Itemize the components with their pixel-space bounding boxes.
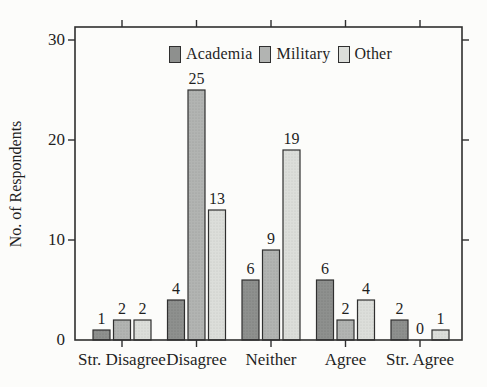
bar-other-2 xyxy=(283,150,300,340)
bar-academia-3 xyxy=(317,280,334,340)
bar-other-1 xyxy=(209,210,226,340)
bar-other-3 xyxy=(358,300,375,340)
bar-value-label: 19 xyxy=(284,130,300,147)
bar-military-1 xyxy=(188,90,205,340)
bar-academia-1 xyxy=(168,300,185,340)
bar-value-label: 1 xyxy=(437,310,445,327)
legend-item-military: Military xyxy=(259,45,330,63)
x-category-label: Str. Disagree xyxy=(78,350,166,369)
bar-value-label: 9 xyxy=(267,230,275,247)
legend-label-other: Other xyxy=(355,45,392,63)
y-axis-title: No. of Respondents xyxy=(7,121,25,248)
legend-swatch-military xyxy=(259,46,271,63)
bar-value-label: 0 xyxy=(416,320,424,337)
scanned-figure-page: 122Str. Disagree42513Disagree6919Neither… xyxy=(0,0,487,387)
bar-value-label: 4 xyxy=(362,280,370,297)
bar-value-label: 4 xyxy=(172,280,180,297)
legend-swatch-other xyxy=(338,46,350,63)
bar-other-0 xyxy=(134,320,151,340)
bar-value-label: 2 xyxy=(139,300,147,317)
y-tick-label: 10 xyxy=(48,230,65,249)
legend-item-other: Other xyxy=(338,45,392,63)
bar-value-label: 2 xyxy=(342,300,350,317)
legend-item-academia: Academia xyxy=(169,45,252,63)
x-category-label: Neither xyxy=(246,350,297,369)
legend-label-academia: Academia xyxy=(186,45,252,63)
bar-academia-4 xyxy=(391,320,408,340)
x-category-label: Agree xyxy=(325,350,367,369)
legend-label-military: Military xyxy=(276,45,330,63)
bar-other-4 xyxy=(432,330,449,340)
bar-value-label: 6 xyxy=(247,260,255,277)
bar-value-label: 2 xyxy=(118,300,126,317)
bar-value-label: 2 xyxy=(396,300,404,317)
y-tick-label: 20 xyxy=(48,130,65,149)
bar-military-3 xyxy=(337,320,354,340)
legend-swatch-academia xyxy=(169,46,181,63)
bar-value-label: 13 xyxy=(209,190,225,207)
bar-military-0 xyxy=(114,320,131,340)
bar-military-2 xyxy=(263,250,280,340)
bar-value-label: 1 xyxy=(98,310,106,327)
bar-value-label: 25 xyxy=(189,70,205,87)
bar-academia-2 xyxy=(242,280,259,340)
y-tick-label: 30 xyxy=(48,30,65,49)
legend: Academia Military Other xyxy=(169,45,399,63)
bar-value-label: 6 xyxy=(321,260,329,277)
x-category-label: Str. Agree xyxy=(386,350,454,369)
bar-academia-0 xyxy=(93,330,110,340)
x-category-label: Disagree xyxy=(166,350,226,369)
y-tick-label: 0 xyxy=(57,330,66,349)
